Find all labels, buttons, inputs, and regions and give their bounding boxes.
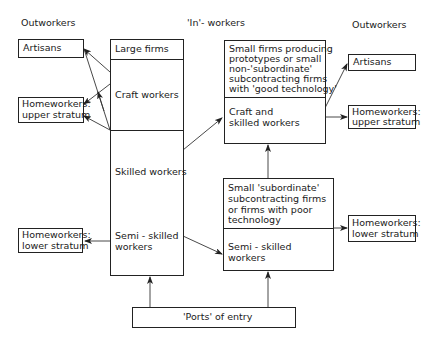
right-homeworkers-lower-box: Homeworkers: lower stratum [348, 215, 416, 242]
small-firms-good-workers-line2: skilled workers [229, 118, 300, 129]
small-firms-poor-title-line4: technology [228, 215, 281, 226]
large-firms-semi-skilled-line1: Semi - skilled [115, 231, 178, 242]
large-firms-column: Large firms Craft workers Skilled worker… [110, 39, 184, 276]
large-firms-header-divider [111, 59, 183, 60]
small-firms-good-tech-box: Small firms producing prototypes or smal… [224, 40, 326, 144]
large-firms-semi-skilled-line2: workers [115, 242, 152, 253]
right-homeworkers-lower-line1: Homeworkers: [352, 218, 421, 229]
left-homeworkers-lower-line1: Homeworkers: [22, 230, 91, 241]
left-homeworkers-upper-box: Homeworkers: upper stratum [18, 97, 84, 123]
small-firms-poor-workers-line2: workers [228, 253, 265, 264]
left-artisans-label: Artisans [23, 43, 62, 54]
left-homeworkers-lower-line2: lower stratum [22, 241, 88, 252]
small-firms-poor-divider [224, 228, 333, 229]
left-artisans-box: Artisans [18, 39, 84, 58]
right-artisans-box: Artisans [348, 54, 416, 71]
small-firms-good-title-line5: with 'good technology' [229, 84, 337, 95]
left-homeworkers-upper-line2: upper stratum [22, 110, 90, 121]
small-firms-poor-title-line2: subcontracting firms [228, 194, 326, 205]
right-homeworkers-upper-line2: upper stratum [352, 117, 420, 128]
left-homeworkers-upper-line1: Homeworkers: [22, 99, 91, 110]
left-homeworkers-lower-box: Homeworkers: lower stratum [18, 228, 83, 253]
large-firms-title: Large firms [115, 44, 169, 55]
small-firms-poor-workers-line1: Semi - skilled [228, 242, 291, 253]
ports-of-entry-label: 'Ports' of entry [183, 312, 252, 323]
header-in-workers: 'In'- workers [187, 17, 245, 28]
large-firms-skilled-label: Skilled workers [115, 167, 187, 178]
small-firms-poor-tech-box: Small 'subordinate' subcontracting firms… [223, 178, 334, 271]
right-homeworkers-upper-box: Homeworkers: upper stratum [348, 105, 416, 129]
right-homeworkers-lower-line2: lower stratum [352, 229, 418, 240]
right-artisans-label: Artisans [353, 57, 392, 68]
ports-of-entry-box: 'Ports' of entry [132, 307, 296, 328]
large-firms-craft-label: Craft workers [115, 90, 179, 101]
small-firms-good-workers-line1: Craft and [229, 107, 273, 118]
small-firms-poor-title-line1: Small 'subordinate' [228, 183, 319, 194]
header-right-outworkers: Outworkers [352, 19, 407, 30]
header-left-outworkers: Outworkers [21, 17, 76, 28]
small-firms-good-divider [225, 97, 325, 98]
large-firms-craft-divider [111, 130, 183, 131]
